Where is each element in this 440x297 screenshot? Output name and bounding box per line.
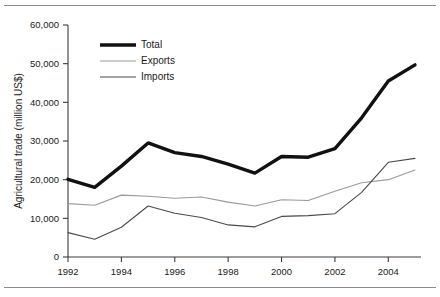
- y-tick-label: 40,000: [30, 97, 59, 108]
- x-tick-label: 2004: [378, 266, 399, 277]
- legend-label-total: Total: [141, 39, 162, 50]
- series-line-imports: [68, 158, 415, 239]
- y-tick-label: 0: [54, 251, 59, 262]
- y-tick-label: 30,000: [30, 135, 59, 146]
- y-tick-label: 10,000: [30, 213, 59, 224]
- x-tick-label: 1992: [57, 266, 78, 277]
- y-tick-label: 20,000: [30, 174, 59, 185]
- chart-legend: TotalExportsImports: [100, 39, 175, 82]
- line-chart: 010,00020,00030,00040,00050,00060,000 19…: [0, 0, 440, 297]
- x-tick-label: 2002: [324, 266, 345, 277]
- y-tick-label: 50,000: [30, 58, 59, 69]
- x-axis-tick-group: 1992199419961998200020022004: [57, 257, 398, 277]
- legend-label-exports: Exports: [141, 55, 175, 66]
- x-tick-label: 1994: [111, 266, 132, 277]
- x-tick-label: 1996: [164, 266, 185, 277]
- x-tick-label: 2000: [271, 266, 292, 277]
- series-line-total: [68, 65, 415, 188]
- legend-label-imports: Imports: [141, 71, 174, 82]
- x-tick-label: 1998: [218, 266, 239, 277]
- y-tick-label: 60,000: [30, 19, 59, 30]
- y-axis-title: Agricultural trade (million US$): [13, 73, 24, 209]
- y-axis-tick-group: 010,00020,00030,00040,00050,00060,000: [30, 19, 68, 262]
- figure-container: 010,00020,00030,00040,00050,00060,000 19…: [0, 0, 440, 297]
- series-line-exports: [68, 170, 415, 206]
- series-group: [68, 65, 415, 239]
